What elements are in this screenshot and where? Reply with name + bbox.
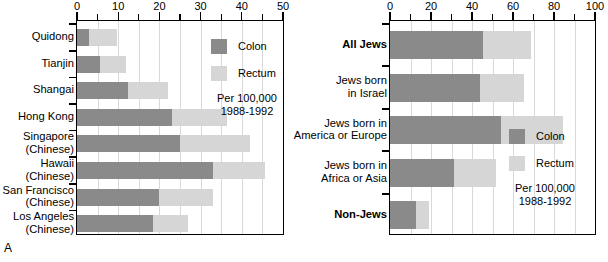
- legend-swatch-rectum-icon: [211, 66, 227, 81]
- category-tick: [69, 50, 77, 52]
- legend-note-line2: 1988-1992: [507, 195, 583, 208]
- category-label-line: (Chinese): [13, 223, 74, 236]
- category-label-line: Hawaii: [26, 157, 75, 170]
- legend-label-rectum: Rectum: [536, 157, 574, 169]
- legend-note-b: Per 100,000 1988-1992: [507, 182, 583, 208]
- legend-swatch-colon-icon: [211, 39, 227, 54]
- bar-segment-rectum: [416, 201, 429, 229]
- category-tick: [382, 108, 390, 110]
- axis-tick-minor: [179, 14, 180, 21]
- legend-row-colon: Colon: [509, 128, 583, 145]
- axis-tick-label: 20: [425, 0, 437, 12]
- bar-segment-colon: [77, 56, 100, 73]
- category-label: All Jews: [342, 38, 387, 51]
- bar-segment-colon: [77, 162, 213, 179]
- bar-segment-rectum: [483, 31, 531, 59]
- bar-segment-colon: [77, 215, 153, 232]
- figure-root: 01020304050 A Colon Rectum Per 100,000 1…: [0, 0, 608, 262]
- category-label: Quidong: [32, 30, 74, 43]
- category-label-line: (Chinese): [26, 170, 75, 183]
- legend-row-colon: Colon: [211, 38, 285, 55]
- category-label: Singapore(Chinese): [23, 130, 74, 155]
- axis-tick-label: 80: [548, 0, 560, 12]
- bar-segment-rectum: [213, 162, 265, 179]
- category-label-line: Jews born in: [321, 159, 387, 172]
- category-label-line: Singapore: [23, 130, 74, 143]
- bar-row: [77, 135, 283, 152]
- axis-tick-label: 40: [236, 0, 248, 12]
- axis-tick-major: [241, 12, 242, 21]
- category-tick: [69, 23, 77, 25]
- axis-tick-minor: [533, 14, 534, 21]
- bar-segment-colon: [390, 74, 480, 102]
- category-tick: [382, 193, 390, 195]
- category-label: Hawaii(Chinese): [26, 157, 75, 182]
- legend-row-rectum: Rectum: [509, 155, 583, 172]
- category-tick: [382, 65, 390, 67]
- bar-segment-colon: [77, 29, 89, 46]
- category-tick: [382, 23, 390, 25]
- category-label: Jews born inAmerica or Europe: [294, 117, 387, 142]
- axis-tick-label: 0: [387, 0, 393, 12]
- legend-label-colon: Colon: [536, 130, 565, 142]
- axis-tick-minor: [492, 14, 493, 21]
- category-label: Tianjin: [41, 57, 74, 70]
- legend-note-a: Per 100,000 1988-1992: [209, 92, 285, 118]
- bar-segment-rectum: [480, 74, 524, 102]
- axis-tick-major: [430, 12, 431, 21]
- axis-tick-minor: [262, 14, 263, 21]
- category-label-line: Los Angeles: [13, 210, 74, 223]
- category-label-line: San Francisco: [2, 184, 74, 197]
- bar-segment-colon: [390, 159, 454, 187]
- legend-note-line2: 1988-1992: [209, 105, 285, 118]
- axis-tick-label: 30: [194, 0, 206, 12]
- axis-tick-label: 100: [586, 0, 604, 12]
- bar-segment-rectum: [100, 56, 126, 73]
- axis-tick-major: [389, 12, 390, 21]
- category-label-line: Quidong: [32, 30, 74, 43]
- axis-tick-label: 50: [277, 0, 289, 12]
- category-label: Jews bornin Israel: [336, 74, 387, 99]
- bar-row: [77, 189, 283, 206]
- category-label-line: in Israel: [336, 87, 387, 100]
- category-label-line: Tianjin: [41, 57, 74, 70]
- axis-tick-label: 0: [74, 0, 80, 12]
- category-label: Jews born inAfrica or Asia: [321, 159, 387, 184]
- axis-tick-major: [118, 12, 119, 21]
- bar-segment-rectum: [153, 215, 188, 232]
- axis-tick-label: 60: [507, 0, 519, 12]
- axis-tick-minor: [574, 14, 575, 21]
- category-label: San Francisco(Chinese): [2, 184, 74, 209]
- category-label-line: Jews born: [336, 74, 387, 87]
- legend-b: Colon Rectum Per 100,000 1988-1992: [509, 128, 583, 208]
- axis-tick-minor: [410, 14, 411, 21]
- axis-tick-minor: [451, 14, 452, 21]
- category-label-line: Jews born in: [294, 117, 387, 130]
- axis-tick-major: [471, 12, 472, 21]
- category-tick: [69, 77, 77, 79]
- bar-segment-colon: [390, 31, 483, 59]
- axis-tick-minor: [221, 14, 222, 21]
- axis-tick-label: 40: [466, 0, 478, 12]
- axis-tick-major: [594, 12, 595, 21]
- bar-segment-colon: [77, 109, 172, 126]
- axis-tick-label: 10: [112, 0, 124, 12]
- bar-row: [77, 215, 283, 232]
- category-tick: [69, 103, 77, 105]
- bar-segment-rectum: [180, 135, 250, 152]
- legend-label-rectum: Rectum: [238, 67, 276, 79]
- axis-tick-minor: [138, 14, 139, 21]
- bar-row: [390, 31, 595, 59]
- chart-panel-b: 020406080100 B Colon Rectum Per 100,000 …: [304, 0, 608, 262]
- category-label-line: Shangai: [33, 83, 74, 96]
- legend-swatch-colon-icon: [509, 129, 525, 144]
- bar-row: [77, 162, 283, 179]
- legend-swatch-rectum-icon: [509, 156, 525, 171]
- category-label: Los Angeles(Chinese): [13, 210, 74, 235]
- axis-tick-minor: [97, 14, 98, 21]
- bar-segment-rectum: [128, 82, 168, 99]
- axis-tick-major: [159, 12, 160, 21]
- legend-row-rectum: Rectum: [211, 65, 285, 82]
- legend-a: Colon Rectum Per 100,000 1988-1992: [211, 38, 285, 118]
- panel-letter-a: A: [4, 241, 12, 255]
